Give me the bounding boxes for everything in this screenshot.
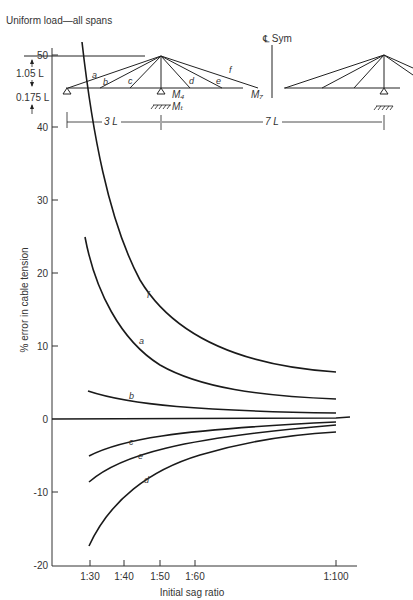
x-tick-labels: 1:30 1:40 1:50 1:60 1:100 [80, 571, 349, 582]
curve-a [85, 237, 336, 399]
cable-label-d: d [189, 76, 195, 86]
bearing-icon [380, 88, 388, 94]
curve-zero [52, 417, 350, 419]
moment-tower-label: M₄ [172, 89, 184, 100]
cable-label-c: c [128, 76, 133, 86]
svg-text:d: d [144, 475, 150, 485]
cable-label-a: a [92, 70, 97, 80]
svg-text:10: 10 [37, 341, 49, 352]
bearing-icon [157, 88, 165, 94]
svg-text:1:50: 1:50 [150, 571, 170, 582]
svg-text:c: c [129, 437, 134, 447]
side-span-label: 3 L [104, 116, 118, 127]
svg-text:50: 50 [37, 50, 49, 61]
svg-text:b: b [129, 391, 134, 401]
svg-text:40: 40 [37, 122, 49, 133]
moment-base-label: Mₜ [172, 101, 184, 112]
svg-text:1:40: 1:40 [114, 571, 134, 582]
curve-labels: f a b c e d [129, 290, 151, 485]
cable-label-f: f [229, 65, 233, 75]
bridge-schematic [24, 45, 413, 98]
svg-text:20: 20 [37, 268, 49, 279]
symmetry-label: ℄ Sym [262, 33, 292, 44]
curves [52, 42, 350, 546]
header-note: Uniform load—all spans [6, 15, 112, 26]
main-span-label: 7 L [265, 116, 279, 127]
svg-text:-10: -10 [34, 487, 49, 498]
curve-d [89, 432, 336, 546]
cable-label-b: b [103, 77, 108, 87]
curve-f [82, 42, 336, 372]
svg-text:0: 0 [42, 414, 48, 425]
axes [52, 48, 357, 566]
deck-offset-label: 0.175 L [16, 92, 50, 103]
curve-b [88, 391, 336, 413]
y-axis-title: % error in cable tension [19, 247, 30, 352]
svg-text:1:100: 1:100 [323, 571, 348, 582]
svg-text:-20: -20 [34, 560, 49, 571]
svg-text:1:30: 1:30 [80, 571, 100, 582]
cable-label-e: e [216, 76, 221, 86]
ground-hatch-icon [151, 105, 393, 110]
curve-e [89, 425, 336, 482]
moment-mid-label: M₇ [251, 89, 263, 100]
x-axis-title: Initial sag ratio [160, 587, 225, 598]
svg-text:30: 30 [37, 195, 49, 206]
cable-tension-error-chart: Uniform load—all spans [0, 0, 413, 600]
svg-text:a: a [139, 336, 144, 346]
svg-text:e: e [138, 451, 143, 461]
y-tick-labels: 50 40 30 20 10 0 -10 -20 [34, 50, 49, 571]
svg-text:1:60: 1:60 [185, 571, 205, 582]
tower-height-label: 1.05 L [16, 68, 44, 79]
pin-support-icon [63, 88, 71, 94]
